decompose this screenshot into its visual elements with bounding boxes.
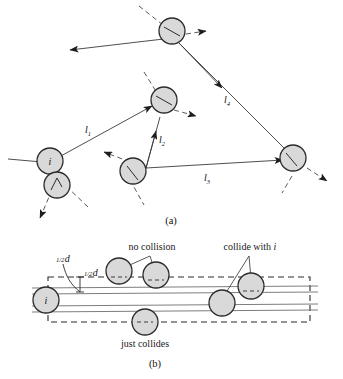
molecule-just-collides [132,309,158,335]
caption-panel-b: (b) [149,358,162,370]
caption-panel-a: (a) [165,215,177,227]
molecule-i-label: i [49,156,52,167]
molecule-right [280,145,306,171]
figure-root: i l1 l2 l3 l4 ( [0,0,343,379]
molecule-middle [151,87,177,113]
molecule-no-collision-2 [143,262,169,288]
annotation-collide-with-i: collide with i [224,241,277,252]
molecule-i-b: i [33,287,59,313]
molecule-i-b-label: i [45,295,48,306]
annotation-no-collision: no collision [129,241,176,252]
molecule-no-collision-1 [106,258,132,284]
molecule-collide-1 [209,290,235,316]
molecule-lower-middle [120,158,146,184]
kinetic-theory-figure: i l1 l2 l3 l4 ( [0,0,343,379]
molecule-i-partner [44,172,70,198]
molecule-collide-2 [238,273,264,299]
molecule-i: i [37,148,63,174]
molecule-top [159,18,185,44]
annotation-just-collides: just collides [120,338,169,349]
